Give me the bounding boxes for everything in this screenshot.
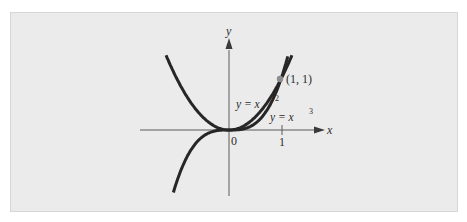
cubic-label-text: y = x [269, 111, 295, 124]
x-tick-label-1: 1 [279, 135, 285, 149]
cubic-label-exponent: 3 [309, 107, 313, 116]
y-axis-label: y [225, 24, 232, 38]
x-axis-label: x [326, 123, 333, 137]
parabola-label-text: y = x [235, 98, 261, 111]
graph-x2-x3: y x 0 1 (1, 1) y = x 2 y = x 3 [0, 0, 467, 222]
cubic-curve [173, 56, 287, 192]
y-axis [226, 38, 233, 196]
point-1-1-marker [277, 76, 283, 82]
y-axis-arrow-icon [226, 38, 233, 49]
parabola-label-exponent: 2 [275, 94, 279, 103]
x-axis-arrow-icon [314, 127, 325, 134]
origin-label: 0 [231, 134, 237, 148]
point-label: (1, 1) [286, 72, 312, 86]
cubic-label: y = x 3 [269, 107, 313, 124]
